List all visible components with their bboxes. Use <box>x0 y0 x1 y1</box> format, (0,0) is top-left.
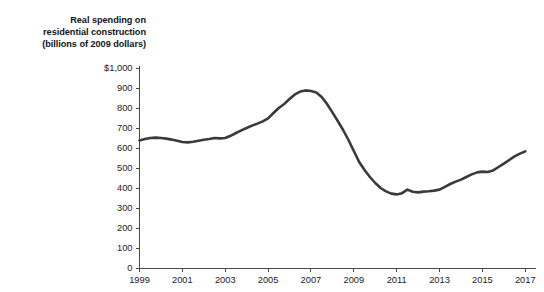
y-axis-tick-label: 900 <box>117 83 133 93</box>
chart-title-line-1: Real spending on <box>70 15 146 25</box>
y-axis-tick-label: 700 <box>117 123 133 133</box>
x-axis-tick-label: 2003 <box>215 275 236 285</box>
x-axis-tick-label: 2001 <box>172 275 193 285</box>
chart-title-line-3: (billions of 2009 dollars) <box>42 39 146 49</box>
x-axis-tick-label: 2013 <box>429 275 450 285</box>
y-axis-tick-label: 800 <box>117 103 133 113</box>
y-axis-tick-label: 200 <box>117 223 133 233</box>
data-series-group <box>140 90 526 194</box>
y-axis: 0100200300400500600700800900$1,000 <box>104 63 139 273</box>
y-axis-tick-label: 600 <box>117 143 133 153</box>
x-axis-tick-label: 2007 <box>301 275 322 285</box>
y-axis-tick-label: 500 <box>117 163 133 173</box>
x-axis-tick-label: 2017 <box>515 275 536 285</box>
x-axis-tick-label: 1999 <box>129 275 150 285</box>
data-line-residential-construction <box>140 90 526 194</box>
x-axis-tick-label: 2005 <box>258 275 279 285</box>
chart-container: Real spending on residential constructio… <box>0 0 544 292</box>
x-axis: 1999200120032005200720092011201320152017 <box>129 268 536 285</box>
y-axis-tick-label: 100 <box>117 243 133 253</box>
y-axis-tick-label: 400 <box>117 183 133 193</box>
chart-title: Real spending on residential constructio… <box>20 14 146 51</box>
y-axis-tick-label: 300 <box>117 203 133 213</box>
x-axis-tick-label: 2011 <box>387 275 407 285</box>
x-axis-tick-label: 2009 <box>343 275 364 285</box>
y-axis-tick-label: $1,000 <box>104 63 132 73</box>
y-axis-tick-label: 0 <box>127 263 132 273</box>
x-axis-tick-label: 2015 <box>472 275 493 285</box>
chart-title-line-2: residential construction <box>43 27 146 37</box>
